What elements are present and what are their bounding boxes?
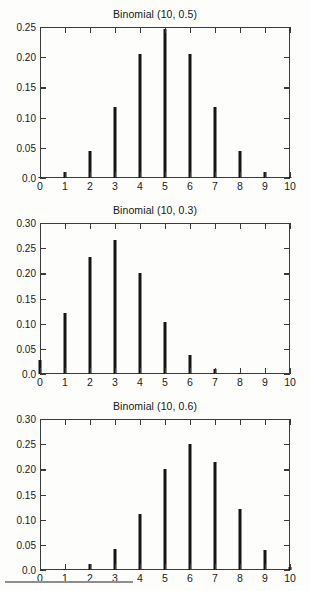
x-tick xyxy=(290,172,291,178)
y-tick-label: 0.25 xyxy=(0,243,36,254)
x-tick-top xyxy=(140,419,141,425)
x-tick-top xyxy=(190,419,191,425)
x-tick-label: 4 xyxy=(137,376,143,388)
x-tick-label: 6 xyxy=(187,180,193,192)
y-tick-label: 0.20 xyxy=(0,268,36,279)
x-tick xyxy=(265,564,266,570)
x-tick-top xyxy=(115,27,116,33)
x-tick-label: 8 xyxy=(237,180,243,192)
x-tick-top xyxy=(290,419,291,425)
y-tick-label: 0.20 xyxy=(0,464,36,475)
y-tick-right xyxy=(284,570,290,571)
y-tick-right xyxy=(284,57,290,58)
y-tick xyxy=(40,273,46,274)
x-tick xyxy=(215,564,216,570)
y-tick xyxy=(40,520,46,521)
x-tick-top xyxy=(165,27,166,33)
y-tick xyxy=(40,570,46,571)
x-tick-top xyxy=(240,223,241,229)
x-tick-top xyxy=(190,223,191,229)
x-tick-label: 9 xyxy=(262,572,268,584)
x-tick-top xyxy=(290,223,291,229)
y-tick-right xyxy=(284,469,290,470)
x-tick-label: 4 xyxy=(137,180,143,192)
x-tick xyxy=(290,564,291,570)
x-tick-label: 7 xyxy=(212,572,218,584)
x-tick-label: 0 xyxy=(37,376,43,388)
y-tick xyxy=(40,118,46,119)
y-tick-right xyxy=(284,178,290,179)
bar-x-1 xyxy=(64,313,67,374)
y-tick-label: 0.05 xyxy=(0,539,36,550)
plot-area xyxy=(40,27,290,178)
bar-x-8 xyxy=(239,509,242,570)
y-tick xyxy=(40,444,46,445)
x-tick xyxy=(240,564,241,570)
x-tick xyxy=(240,172,241,178)
bar-x-2 xyxy=(89,257,92,374)
x-tick-top xyxy=(215,419,216,425)
x-tick-top xyxy=(165,223,166,229)
x-tick xyxy=(215,368,216,374)
x-tick xyxy=(190,368,191,374)
x-tick-label: 8 xyxy=(237,572,243,584)
x-tick-top xyxy=(90,27,91,33)
x-tick-label: 6 xyxy=(187,572,193,584)
chart-title: Binomial (10, 0.6) xyxy=(0,400,310,412)
x-tick-top xyxy=(65,27,66,33)
x-tick-label: 9 xyxy=(262,180,268,192)
x-tick xyxy=(165,564,166,570)
x-tick-top xyxy=(40,27,41,33)
x-tick-label: 10 xyxy=(284,180,296,192)
y-tick xyxy=(40,349,46,350)
x-tick xyxy=(40,564,41,570)
x-tick-top xyxy=(265,223,266,229)
x-tick xyxy=(65,564,66,570)
y-tick-right xyxy=(284,248,290,249)
chart-title: Binomial (10, 0.3) xyxy=(0,204,310,216)
bar-x-7 xyxy=(214,462,217,570)
x-tick xyxy=(115,368,116,374)
y-tick-label: 0.0 xyxy=(0,565,36,576)
x-tick-label: 2 xyxy=(87,376,93,388)
y-tick xyxy=(40,299,46,300)
x-tick-label: 0 xyxy=(37,180,43,192)
x-tick-label: 8 xyxy=(237,376,243,388)
x-tick-top xyxy=(40,223,41,229)
y-tick xyxy=(40,469,46,470)
bar-x-4 xyxy=(139,273,142,374)
y-tick-label: 0.15 xyxy=(0,489,36,500)
x-tick xyxy=(90,368,91,374)
bar-x-3 xyxy=(114,240,117,374)
bar-x-6 xyxy=(189,444,192,570)
x-tick-label: 10 xyxy=(284,376,296,388)
y-tick-label: 0.10 xyxy=(0,112,36,123)
y-tick-label: 0.10 xyxy=(0,514,36,525)
x-tick-label: 1 xyxy=(62,180,68,192)
y-tick-label: 0.10 xyxy=(0,318,36,329)
y-tick-label: 0.0 xyxy=(0,173,36,184)
y-tick-label: 0.05 xyxy=(0,142,36,153)
x-tick-label: 3 xyxy=(112,376,118,388)
bar-x-4 xyxy=(139,54,142,178)
x-tick xyxy=(265,172,266,178)
plot-area xyxy=(40,419,290,570)
x-tick xyxy=(65,368,66,374)
x-tick-label: 9 xyxy=(262,376,268,388)
x-tick xyxy=(290,368,291,374)
y-tick-right xyxy=(284,118,290,119)
x-tick-label: 10 xyxy=(284,572,296,584)
x-tick xyxy=(90,172,91,178)
y-tick-right xyxy=(284,87,290,88)
y-tick-label: 0.25 xyxy=(0,22,36,33)
bar-x-5 xyxy=(164,322,167,374)
x-tick-top xyxy=(265,419,266,425)
chart-panel-binomial-10-0.3: Binomial (10, 0.3) 0.00.050.100.150.200.… xyxy=(0,196,310,393)
x-tick xyxy=(215,172,216,178)
y-tick xyxy=(40,324,46,325)
x-tick-top xyxy=(240,419,241,425)
x-tick-label: 4 xyxy=(137,572,143,584)
x-tick xyxy=(115,172,116,178)
y-tick-right xyxy=(284,495,290,496)
x-tick-label: 5 xyxy=(162,180,168,192)
